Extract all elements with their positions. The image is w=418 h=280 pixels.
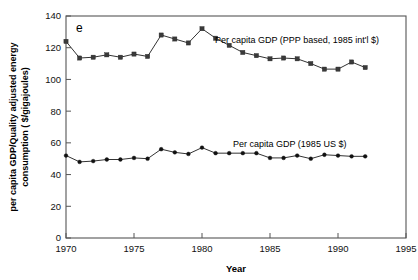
data-point (363, 154, 367, 158)
data-point (295, 57, 299, 61)
data-point (309, 61, 313, 65)
y-tick-label: 0 (56, 232, 61, 243)
data-point (187, 152, 191, 156)
data-point (159, 33, 163, 37)
data-point (241, 50, 245, 54)
y-tick-label: 140 (45, 10, 61, 21)
data-point (64, 154, 68, 158)
data-point (118, 55, 122, 59)
data-point (255, 151, 259, 155)
data-point (105, 158, 109, 162)
x-tick-label: 1980 (191, 243, 212, 254)
data-point (268, 57, 272, 61)
x-tick-label: 1985 (259, 243, 280, 254)
data-point (241, 151, 245, 155)
data-point (91, 55, 95, 59)
data-point (146, 157, 150, 161)
chart-canvas: 020406080100120140 197019751980198519901… (0, 0, 418, 280)
data-point (132, 52, 136, 56)
data-point (336, 67, 340, 71)
data-point (309, 157, 313, 161)
y-tick-label: 100 (45, 74, 61, 85)
data-point (200, 27, 204, 31)
data-point (146, 54, 150, 58)
data-point (282, 56, 286, 60)
data-point (363, 65, 367, 69)
data-point (105, 53, 109, 57)
data-point (132, 156, 136, 160)
data-point (295, 154, 299, 158)
data-point (173, 150, 177, 154)
data-point (173, 37, 177, 41)
data-point (91, 159, 95, 163)
y-tick-label: 120 (45, 42, 61, 53)
data-point (159, 147, 163, 151)
data-point (186, 41, 190, 45)
data-point (200, 146, 204, 150)
y-axis-title-line2: consumption ( $/gigajoules) (20, 67, 30, 187)
series-label-us: Per capita GDP (1985 US $) (233, 139, 346, 149)
panel-letter: e (76, 21, 83, 35)
data-point (350, 60, 354, 64)
x-axis-title: Year (226, 263, 246, 274)
x-tick-label: 1970 (55, 243, 76, 254)
data-point (214, 151, 218, 155)
data-point (322, 67, 326, 71)
y-tick-label: 60 (50, 137, 61, 148)
data-point (350, 154, 354, 158)
x-tick-label: 1990 (327, 243, 348, 254)
y-axis-title: per capita GDP/Quality adjusted energy c… (8, 42, 30, 211)
data-point (227, 151, 231, 155)
x-tick-label: 1975 (123, 243, 144, 254)
figure-panel-e: 020406080100120140 197019751980198519901… (0, 0, 418, 280)
y-tick-label: 40 (50, 169, 61, 180)
data-point (268, 156, 272, 160)
data-point (119, 158, 123, 162)
data-point (336, 154, 340, 158)
data-point (78, 160, 82, 164)
y-tick-label: 80 (50, 106, 61, 117)
data-point (254, 54, 258, 58)
x-tick-label: 1995 (395, 243, 416, 254)
data-point (282, 156, 286, 160)
data-point (78, 56, 82, 60)
y-axis-title-line1: per capita GDP/Quality adjusted energy (8, 42, 18, 211)
series-label-ppp: Per capita GDP (PPP based, 1985 int'l $) (215, 35, 379, 45)
data-point (64, 39, 68, 43)
y-tick-label: 20 (50, 201, 61, 212)
data-point (323, 153, 327, 157)
